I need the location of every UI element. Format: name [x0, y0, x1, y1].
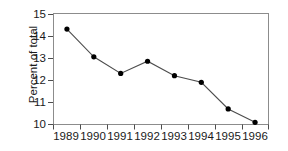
data-point-1993 — [172, 73, 177, 78]
data-point-1996 — [252, 120, 257, 125]
data-point-1994 — [199, 80, 204, 85]
data-point-1989 — [64, 26, 69, 31]
x-axis-ticks — [54, 125, 269, 130]
y-axis-ticks — [48, 15, 53, 125]
chart-canvas — [0, 0, 288, 151]
plot-area: 15 14 13 12 11 10 1989 1990 1991 1992 19… — [0, 0, 288, 151]
chart-figure: Percent of total 15 14 13 12 11 10 1989 … — [0, 0, 288, 151]
data-point-1991 — [118, 71, 123, 76]
data-point-1992 — [145, 59, 150, 64]
data-point-1995 — [226, 106, 231, 111]
data-point-1990 — [91, 54, 96, 59]
